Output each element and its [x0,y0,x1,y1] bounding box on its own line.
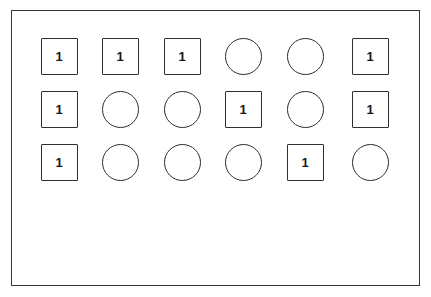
circle-shape-cell[interactable] [164,144,201,181]
circle-shape-cell[interactable] [102,91,139,128]
shape-row: 111 [0,91,431,128]
figure-canvas: 111111111 [0,0,431,297]
square-shape-cell[interactable]: 1 [41,38,78,75]
cell-label: 1 [55,50,62,63]
circle-shape-cell[interactable] [164,91,201,128]
circle-shape-cell[interactable] [225,38,262,75]
cell-label: 1 [55,156,62,169]
square-shape-cell[interactable]: 1 [102,38,139,75]
cell-label: 1 [55,103,62,116]
shape-grid: 111111111 [0,0,431,297]
cell-label: 1 [301,156,308,169]
square-shape-cell[interactable]: 1 [225,91,262,128]
cell-label: 1 [178,50,185,63]
square-shape-cell[interactable]: 1 [41,91,78,128]
cell-label: 1 [239,103,246,116]
square-shape-cell[interactable]: 1 [352,91,389,128]
square-shape-cell[interactable]: 1 [41,144,78,181]
circle-shape-cell[interactable] [225,144,262,181]
square-shape-cell[interactable]: 1 [287,144,324,181]
shape-row: 1111 [0,38,431,75]
square-shape-cell[interactable]: 1 [164,38,201,75]
square-shape-cell[interactable]: 1 [352,38,389,75]
cell-label: 1 [366,103,373,116]
circle-shape-cell[interactable] [102,144,139,181]
cell-label: 1 [116,50,123,63]
circle-shape-cell[interactable] [287,38,324,75]
circle-shape-cell[interactable] [352,144,389,181]
shape-row: 11 [0,144,431,181]
cell-label: 1 [366,50,373,63]
circle-shape-cell[interactable] [287,91,324,128]
